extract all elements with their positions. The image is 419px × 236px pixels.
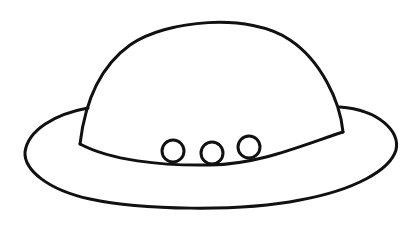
hat-crown (80, 22, 343, 144)
hat-drawing (0, 0, 419, 236)
hat-button-2 (201, 142, 223, 164)
hat-button-1 (162, 140, 184, 162)
hat-button-3 (238, 136, 260, 158)
hat-illustration (0, 0, 419, 236)
